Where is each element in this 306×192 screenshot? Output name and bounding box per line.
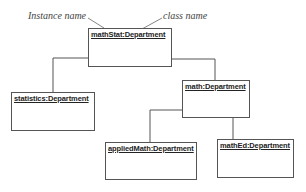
object-box-appliedmath: appliedMath:Department <box>105 142 197 180</box>
object-label: mathStat:Department <box>91 30 165 39</box>
object-box-math: math:Department <box>182 80 250 118</box>
link-mathstat-math <box>172 59 215 80</box>
object-box-mathed: mathEd:Department <box>217 139 294 178</box>
object-label: statistics:Department <box>14 94 89 103</box>
object-label: mathEd:Department <box>220 141 290 150</box>
instance-name-annotation: Instance name <box>28 10 86 21</box>
object-label: math:Department <box>185 82 246 91</box>
object-box-statistics: statistics:Department <box>11 92 95 131</box>
link-math-appliedmath <box>150 110 182 142</box>
object-label: appliedMath:Department <box>108 144 194 153</box>
class-name-annotation: class name <box>163 10 207 21</box>
object-box-mathstat: mathStat:Department <box>88 28 172 67</box>
instance-name-pointer <box>88 18 104 28</box>
object-diagram: Instance name class name mathStat:Depart… <box>0 0 306 192</box>
link-mathstat-statistics <box>53 58 88 92</box>
